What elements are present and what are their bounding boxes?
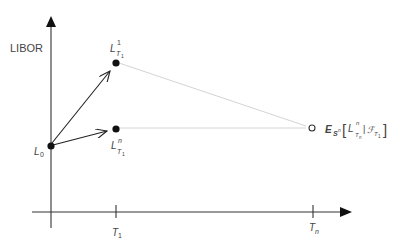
label-expectation: E S n [ L n T n | ℱ T 1 ] (325, 120, 387, 140)
y-axis-label: LIBOR (10, 42, 43, 54)
svg-text:L: L (110, 43, 116, 54)
svg-text:1: 1 (117, 39, 121, 46)
svg-text:0: 0 (40, 151, 44, 158)
svg-text:E: E (325, 124, 332, 135)
dot-l0 (47, 142, 54, 149)
svg-text:n: n (118, 137, 122, 144)
svg-text:n: n (338, 127, 341, 133)
label-l0: L 0 (34, 146, 44, 158)
dot-upper (112, 59, 119, 66)
svg-text:1: 1 (122, 151, 125, 157)
svg-text:L: L (111, 140, 117, 151)
circle-expectation (309, 125, 315, 131)
svg-text:1: 1 (121, 53, 124, 59)
svg-text:L: L (348, 123, 354, 134)
y-axis-arrowhead-icon (46, 16, 56, 27)
svg-text:1: 1 (118, 232, 122, 239)
svg-text:1: 1 (378, 134, 381, 139)
x-axis (32, 205, 352, 218)
svg-text:|: | (363, 124, 365, 134)
svg-text:[: [ (342, 121, 347, 138)
arrow-to-lower (53, 131, 107, 145)
dot-lower (112, 125, 119, 132)
tick-label-t1: T 1 (112, 227, 122, 239)
y-axis (46, 16, 56, 228)
svg-text:n: n (356, 120, 360, 126)
svg-text:L: L (34, 146, 40, 157)
guide-line-upper (119, 63, 306, 126)
x-axis-arrowhead-icon (340, 207, 352, 217)
svg-text:]: ] (383, 121, 387, 138)
svg-text:n: n (359, 135, 362, 140)
libor-diagram: LIBOR L 0 L 1 T 1 L n T 1 E S n [ L n T … (0, 0, 402, 247)
label-lower: L n T 1 (111, 137, 125, 157)
svg-text:n: n (315, 228, 319, 235)
label-upper: L 1 T 1 (110, 39, 124, 59)
tick-label-tn: T n (309, 222, 319, 235)
